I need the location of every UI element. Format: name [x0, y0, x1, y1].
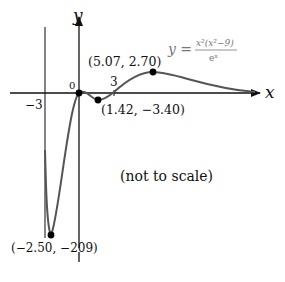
- point-origin: [76, 90, 83, 97]
- x-axis-label: x: [265, 82, 275, 102]
- origin-label: 0: [69, 80, 75, 91]
- formula-numerator: x²(x²−9): [196, 38, 234, 48]
- point-global-min: [48, 232, 55, 239]
- formula-denominator: eˣ: [209, 53, 218, 63]
- three-label: 3: [110, 75, 118, 89]
- point-local-max: [150, 69, 157, 76]
- not-to-scale-note: (not to scale): [120, 168, 213, 184]
- function-graph: y x 0 3 −3 (5.07, 2.70) (1.42, −3.40) (−…: [0, 0, 285, 282]
- local-min-label: (1.42, −3.40): [101, 102, 185, 117]
- function-formula: y = x²(x²−9) eˣ: [167, 38, 237, 63]
- function-curve: [45, 72, 255, 235]
- global-min-label: (−2.50, −209): [11, 241, 98, 255]
- neg-three-label: −3: [25, 98, 43, 112]
- y-axis-label: y: [72, 5, 83, 25]
- local-max-label: (5.07, 2.70): [88, 54, 161, 69]
- formula-lhs: y =: [167, 41, 192, 57]
- graph-canvas: y x 0 3 −3 (5.07, 2.70) (1.42, −3.40) (−…: [0, 0, 285, 282]
